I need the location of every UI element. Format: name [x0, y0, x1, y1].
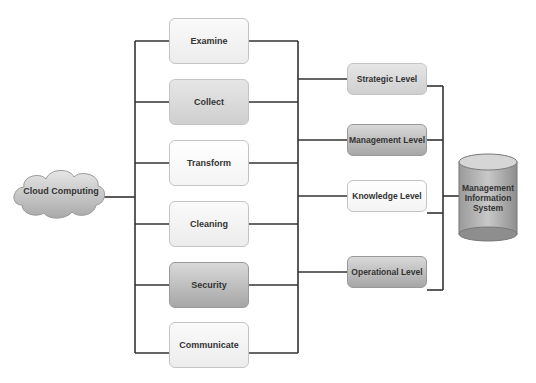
process-communicate: Communicate	[169, 322, 249, 368]
level-knowledge: Knowledge Level	[347, 180, 427, 212]
process-transform: Transform	[169, 140, 249, 186]
mis-label-line-3: System	[459, 203, 517, 213]
process-cleaning: Cleaning	[169, 201, 249, 247]
level-operational: Operational Level	[347, 256, 427, 288]
level-management: Management Level	[347, 124, 427, 156]
management-information-system-node: Management Information System	[459, 183, 517, 213]
diagram-canvas: Cloud Computing Examine Collect Transfor…	[0, 0, 536, 383]
process-examine: Examine	[169, 18, 249, 64]
mis-label-line-1: Management	[459, 183, 517, 193]
process-security: Security	[169, 262, 249, 308]
level-strategic: Strategic Level	[347, 63, 427, 95]
process-collect: Collect	[169, 79, 249, 125]
mis-label-line-2: Information	[459, 193, 517, 203]
cloud-computing-node: Cloud Computing	[16, 186, 106, 196]
